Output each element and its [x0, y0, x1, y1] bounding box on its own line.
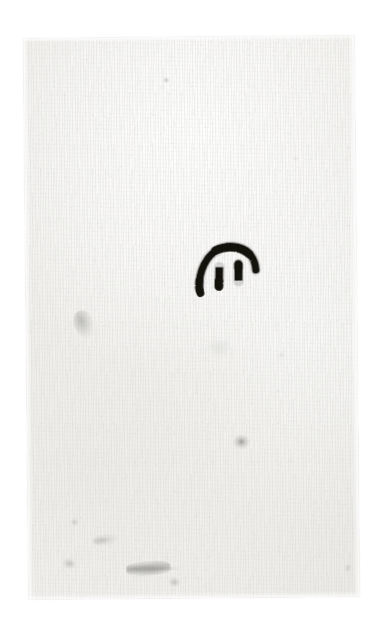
speck-upper-right	[292, 156, 298, 161]
paper-sheet	[23, 35, 359, 599]
pencil-cluster-d	[168, 577, 180, 587]
pencil-cluster-a	[93, 532, 120, 547]
speck-right-lower	[343, 562, 353, 573]
pencil-hairline	[136, 567, 182, 571]
paper-grain-texture	[23, 35, 359, 599]
speck-mid-right	[278, 352, 284, 358]
image-canvas	[0, 0, 377, 628]
paper-edge-fade	[23, 35, 359, 599]
speck-top	[163, 77, 170, 83]
ink-arch-glyph	[193, 230, 264, 299]
smudge-lower-mid	[204, 337, 234, 359]
paper-tone-layer	[23, 35, 359, 599]
pencil-cluster-b	[61, 557, 77, 571]
pencil-cluster-c	[126, 560, 171, 577]
smudge-center	[233, 434, 250, 449]
paper-fibre-texture	[23, 35, 359, 599]
smudge-upper-left	[70, 308, 98, 341]
speck-left-lower	[70, 518, 79, 526]
